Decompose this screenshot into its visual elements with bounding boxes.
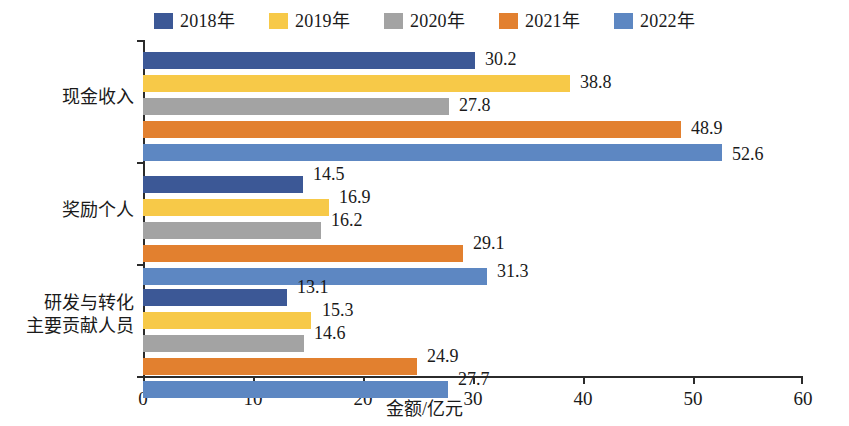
- bar-value-rd-contributors-2021: 24.9: [427, 347, 459, 365]
- bar-reward-individual-2019: [143, 199, 329, 216]
- bar-value-reward-individual-2021: 29.1: [473, 234, 505, 252]
- legend-item-2019: 2019年: [269, 12, 350, 30]
- category-label-1: 奖励个人: [62, 199, 134, 222]
- y-axis-tick-top: [137, 40, 143, 42]
- legend-swatch-2022: [614, 13, 633, 29]
- legend-swatch-2019: [269, 13, 288, 29]
- bar-cash-income-2019: [143, 75, 570, 92]
- legend-item-2020: 2020年: [384, 12, 465, 30]
- legend-label-2018: 2018年: [180, 12, 235, 30]
- legend-item-2022: 2022年: [614, 12, 695, 30]
- bar-value-rd-contributors-2018: 13.1: [297, 278, 329, 296]
- category-label-2-line-0: 研发与转化: [26, 292, 134, 315]
- x-axis-title: 金额/亿元: [0, 400, 849, 418]
- category-label-0: 现金收入: [62, 86, 134, 109]
- bar-value-reward-individual-2022: 31.3: [497, 262, 529, 280]
- legend-swatch-2021: [499, 13, 518, 29]
- bar-value-rd-contributors-2020: 14.6: [314, 324, 346, 342]
- legend-item-2021: 2021年: [499, 12, 580, 30]
- grouped-bar-chart: 2018年 2019年 2020年 2021年 2022年 现金收入 奖励个人 …: [0, 0, 849, 426]
- bar-value-rd-contributors-2022: 27.7: [458, 370, 490, 388]
- legend-swatch-2020: [384, 13, 403, 29]
- x-axis-tick-50: [693, 378, 695, 384]
- bar-reward-individual-2021: [143, 245, 463, 262]
- bar-value-cash-income-2022: 52.6: [732, 145, 764, 163]
- x-axis-tick-60: [801, 378, 803, 384]
- legend-swatch-2018: [154, 13, 173, 29]
- category-label-2: 研发与转化 主要贡献人员: [26, 292, 134, 338]
- bar-value-cash-income-2020: 27.8: [459, 96, 491, 114]
- bar-cash-income-2020: [143, 98, 449, 115]
- category-label-2-line-1: 主要贡献人员: [26, 315, 134, 338]
- bar-rd-contributors-2021: [143, 358, 417, 375]
- bar-value-cash-income-2021: 48.9: [691, 119, 723, 137]
- legend-item-2018: 2018年: [154, 12, 235, 30]
- bar-reward-individual-2018: [143, 176, 303, 193]
- bar-rd-contributors-2018: [143, 289, 287, 306]
- category-label-1-line-0: 奖励个人: [62, 199, 134, 222]
- legend-label-2022: 2022年: [640, 12, 695, 30]
- category-label-0-line-0: 现金收入: [62, 86, 134, 109]
- legend-label-2021: 2021年: [525, 12, 580, 30]
- x-axis-tick-40: [583, 378, 585, 384]
- bar-cash-income-2021: [143, 121, 681, 138]
- bar-value-cash-income-2018: 30.2: [485, 50, 517, 68]
- chart-legend: 2018年 2019年 2020年 2021年 2022年: [0, 6, 849, 36]
- bar-cash-income-2022: [143, 144, 722, 161]
- legend-label-2019: 2019年: [295, 12, 350, 30]
- bar-rd-contributors-2022: [143, 381, 448, 398]
- bar-cash-income-2018: [143, 52, 475, 69]
- legend-label-2020: 2020年: [410, 12, 465, 30]
- bar-rd-contributors-2020: [143, 335, 304, 352]
- bar-value-reward-individual-2020: 16.2: [331, 211, 363, 229]
- bar-value-rd-contributors-2019: 15.3: [322, 301, 354, 319]
- plot-area: 0 10 20 30 40 50 60 30.2 38.8 27.8 48.9 …: [143, 40, 803, 378]
- bar-value-reward-individual-2019: 16.9: [339, 188, 371, 206]
- y-axis-tick-1: [137, 162, 143, 164]
- bar-value-reward-individual-2018: 14.5: [313, 165, 345, 183]
- bar-value-cash-income-2019: 38.8: [580, 73, 612, 91]
- bar-reward-individual-2020: [143, 222, 321, 239]
- y-axis-tick-2: [137, 264, 143, 266]
- bar-rd-contributors-2019: [143, 312, 311, 329]
